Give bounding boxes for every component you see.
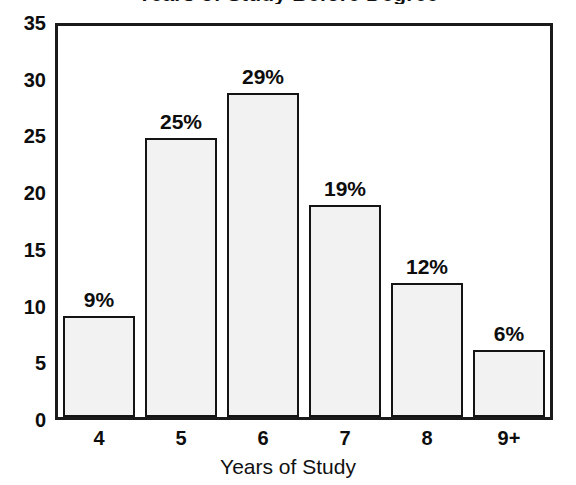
bar-value-label-8: 12% [386, 256, 468, 277]
bar-5 [145, 138, 217, 417]
bar-group: 6% [468, 26, 550, 417]
bar-group: 29% [222, 26, 304, 417]
bar-value-label-9+: 6% [468, 323, 550, 344]
x-tick-label-5: 5 [140, 426, 222, 450]
bar-6 [227, 93, 299, 417]
y-tick-label-0: 0 [0, 410, 46, 430]
bar-value-label-4: 9% [58, 289, 140, 310]
bar-8 [391, 283, 463, 417]
y-axis-tick-labels: 05101520253035 [0, 23, 46, 420]
bar-chart: Years of Study Before Degree 05101520253… [0, 0, 576, 485]
x-tick-label-6: 6 [222, 426, 304, 450]
x-axis-title: Years of Study [0, 455, 576, 479]
x-tick-label-9+: 9+ [468, 426, 550, 450]
y-tick-label-10: 10 [0, 297, 46, 317]
x-axis-tick-labels: 456789+ [58, 426, 550, 454]
bar-group: 25% [140, 26, 222, 417]
bar-group: 19% [304, 26, 386, 417]
bar-4 [63, 316, 135, 417]
y-tick-label-25: 25 [0, 126, 46, 146]
x-tick-label-8: 8 [386, 426, 468, 450]
bar-7 [309, 205, 381, 417]
bars-layer: 9%25%29%19%12%6% [58, 26, 550, 417]
bar-9+ [473, 350, 545, 417]
y-tick-label-15: 15 [0, 240, 46, 260]
bar-value-label-7: 19% [304, 178, 386, 199]
y-tick-label-5: 5 [0, 353, 46, 373]
bar-group: 9% [58, 26, 140, 417]
y-tick-label-35: 35 [0, 13, 46, 33]
chart-title-cropped: Years of Study Before Degree [0, 0, 576, 4]
x-tick-label-7: 7 [304, 426, 386, 450]
bar-group: 12% [386, 26, 468, 417]
y-tick-label-30: 30 [0, 70, 46, 90]
bar-value-label-5: 25% [140, 111, 222, 132]
bar-value-label-6: 29% [222, 66, 304, 87]
x-tick-label-4: 4 [58, 426, 140, 450]
y-tick-label-20: 20 [0, 183, 46, 203]
